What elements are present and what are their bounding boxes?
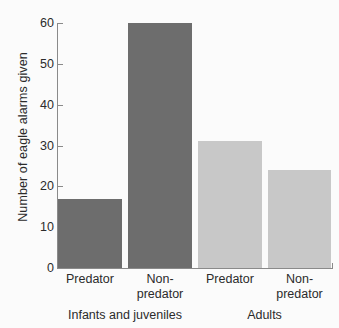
bar — [128, 23, 192, 268]
y-axis-tick-label: 50 — [28, 58, 54, 70]
bar — [268, 170, 331, 268]
plot-area — [58, 23, 333, 268]
x-axis-category-label: Non-predator — [260, 272, 339, 302]
category-label-line-1: Predator — [190, 272, 270, 287]
category-label-line-2: predator — [260, 287, 339, 302]
category-label-line-1: Non- — [260, 272, 339, 287]
x-axis-line — [57, 268, 333, 269]
bar-chart-figure: Number of eagle alarms given 01020304050… — [0, 0, 339, 328]
category-label-line-1: Non- — [120, 272, 200, 287]
x-axis-category-label: Non-predator — [120, 272, 200, 302]
x-axis-category-label: Predator — [190, 272, 270, 287]
y-axis-tick-label: 10 — [28, 221, 54, 233]
bar — [198, 141, 262, 268]
x-axis-category-label: Predator — [50, 272, 130, 287]
bar — [58, 199, 122, 268]
x-axis-group-label: Infants and juveniles — [58, 308, 192, 323]
y-axis-tick-label: 20 — [28, 180, 54, 192]
category-label-line-2: predator — [120, 287, 200, 302]
y-axis-tick-label: 30 — [28, 140, 54, 152]
x-axis-group-label: Adults — [198, 308, 331, 323]
y-axis-tick-label: 60 — [28, 17, 54, 29]
category-label-line-1: Predator — [50, 272, 130, 287]
y-axis-tick-label: 40 — [28, 99, 54, 111]
